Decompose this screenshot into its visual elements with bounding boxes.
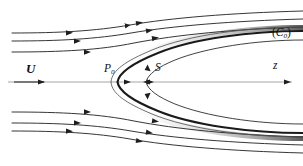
axis-arrow-outflow — [284, 80, 291, 85]
contour-subscript: 0 — [284, 32, 288, 40]
label-z-axis: z — [273, 60, 277, 72]
label-nose-point: P0 — [104, 63, 115, 75]
label-nose-point-subscript: 0 — [111, 68, 115, 76]
lower-streamline-1 — [12, 131, 303, 153]
label-body-contour: (C0) — [272, 27, 291, 39]
z-axis-group — [8, 80, 292, 85]
arrow-lower-2b — [146, 130, 154, 136]
arrow-upper-3a — [84, 49, 91, 54]
label-stagnation-point: S — [155, 62, 161, 74]
arrow-branch-lower-in — [145, 93, 151, 100]
paren-close: ) — [287, 26, 291, 38]
arrow-lower-3a — [84, 109, 91, 114]
figure-container: U P0 S z (C0) — [0, 0, 303, 166]
label-freestream-velocity: U — [26, 62, 35, 75]
axis-arrow-after-stagnation — [147, 80, 154, 85]
arrow-upper-2b — [146, 27, 154, 33]
lower-streamline-2 — [12, 123, 303, 145]
flow-diagram-svg — [0, 0, 303, 166]
arrow-branch-upper-in — [145, 65, 151, 72]
contour-letter: C — [276, 26, 284, 38]
axis-arrow-nose — [124, 80, 131, 85]
arrow-upper-3b — [152, 35, 160, 41]
